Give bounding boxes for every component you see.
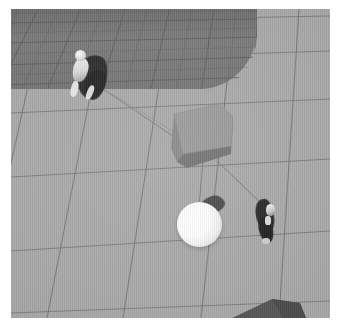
hero-head — [75, 50, 86, 61]
npc-foot — [262, 238, 270, 244]
character-hero[interactable] — [65, 45, 109, 101]
game-viewport[interactable] — [11, 9, 330, 318]
sphere-object[interactable] — [177, 202, 222, 247]
hero-leg-left — [69, 80, 79, 97]
character-npc[interactable] — [253, 195, 281, 247]
screenshot-root — [0, 0, 340, 330]
npc-chest-trim — [265, 216, 271, 225]
wedge-object[interactable] — [226, 297, 308, 318]
cube-object[interactable] — [171, 102, 233, 168]
npc-head — [266, 204, 275, 216]
